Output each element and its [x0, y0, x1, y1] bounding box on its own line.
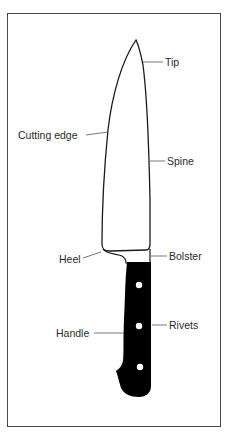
label-handle: Handle: [56, 327, 89, 339]
rivet-2: [136, 323, 142, 329]
label-heel: Heel: [59, 253, 81, 265]
heel-leader: [83, 252, 101, 258]
label-spine: Spine: [167, 155, 194, 167]
label-bolster: Bolster: [169, 250, 202, 262]
rivet-1: [136, 282, 142, 288]
handle: [116, 262, 151, 397]
rivet-3: [137, 364, 143, 370]
blade: [102, 40, 150, 251]
cutting-edge-leader: [86, 132, 108, 135]
label-tip: Tip: [165, 56, 179, 68]
label-cutting-edge: Cutting edge: [18, 129, 78, 141]
label-rivets: Rivets: [169, 319, 198, 331]
knife-illustration: [0, 0, 228, 435]
